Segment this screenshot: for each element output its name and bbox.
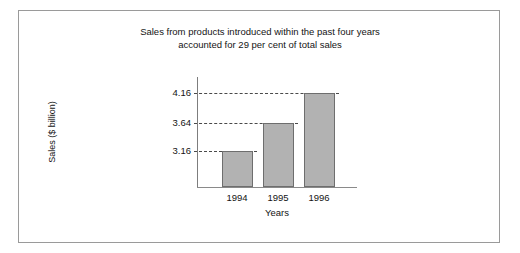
x-tick-label-1994: 1994 [215, 192, 259, 203]
bar-1996[interactable] [304, 93, 335, 187]
bar-1995[interactable] [263, 123, 294, 187]
plot-area: Sales ($ billion) 4.16 3.64 3.16 1994 19… [19, 11, 501, 244]
y-tick-label-3-64: 3.64 [135, 117, 191, 128]
figure-frame: Sales from products introduced within th… [18, 10, 500, 243]
bar-1994[interactable] [222, 151, 253, 187]
y-axis-title: Sales ($ billion) [47, 77, 57, 187]
y-tick-label-3-16: 3.16 [135, 145, 191, 156]
x-tick-label-1996: 1996 [297, 192, 341, 203]
x-axis-line [197, 187, 357, 188]
x-axis-title: Years [197, 207, 357, 218]
y-tick-label-4-16: 4.16 [135, 87, 191, 98]
x-tick-label-1995: 1995 [256, 192, 300, 203]
